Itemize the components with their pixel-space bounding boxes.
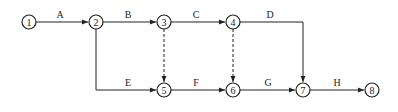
- activity-label-a: A: [56, 9, 64, 20]
- activity-label-b: B: [125, 9, 132, 20]
- activity-label-d: D: [266, 9, 273, 20]
- activity-label-e: E: [125, 77, 131, 88]
- node-label: 8: [370, 85, 375, 96]
- node-6: 6: [226, 83, 240, 97]
- edges: [36, 22, 364, 90]
- node-4: 4: [226, 15, 240, 29]
- node-2: 2: [89, 15, 103, 29]
- network-diagram: A B C D E F G H 1 2 3 4 5 6 7 8: [0, 0, 398, 112]
- node-8: 8: [365, 83, 379, 97]
- activity-label-g: G: [264, 77, 271, 88]
- node-7: 7: [296, 83, 310, 97]
- node-label: 3: [162, 17, 167, 28]
- node-1: 1: [22, 15, 36, 29]
- node-label: 5: [162, 85, 167, 96]
- node-5: 5: [157, 83, 171, 97]
- node-3: 3: [157, 15, 171, 29]
- node-label: 2: [94, 17, 99, 28]
- activity-label-c: C: [193, 9, 200, 20]
- node-label: 1: [27, 17, 32, 28]
- activity-label-f: F: [193, 77, 199, 88]
- node-label: 4: [231, 17, 236, 28]
- activity-d-arrow: [240, 22, 303, 82]
- node-label: 7: [301, 85, 306, 96]
- node-label: 6: [231, 85, 236, 96]
- activity-label-h: H: [333, 77, 340, 88]
